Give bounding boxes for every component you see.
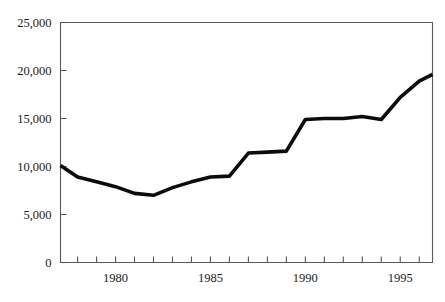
y-axis-ticks — [61, 23, 67, 263]
x-axis-ticks — [78, 257, 420, 263]
y-tick-label: 15,000 — [17, 112, 51, 126]
y-tick-label: 0 — [45, 256, 51, 270]
x-tick-label: 1980 — [103, 271, 128, 285]
y-axis-tick-labels: 05,00010,00015,00020,00025,000 — [17, 16, 51, 270]
plot-border — [61, 23, 433, 263]
data-series-group — [61, 74, 433, 195]
line-chart: 05,00010,00015,00020,00025,000 198019851… — [0, 0, 445, 302]
y-tick-label: 20,000 — [17, 64, 51, 78]
x-axis-tick-labels: 1980198519901995 — [103, 271, 413, 285]
y-tick-label: 10,000 — [17, 160, 51, 174]
chart-canvas: 05,00010,00015,00020,00025,000 198019851… — [0, 0, 445, 302]
x-tick-label: 1985 — [198, 271, 223, 285]
y-tick-label: 25,000 — [17, 16, 51, 30]
x-tick-label: 1995 — [388, 271, 413, 285]
plot-frame — [61, 23, 433, 263]
x-tick-label: 1990 — [293, 271, 318, 285]
data-line-series-1 — [61, 74, 433, 195]
y-tick-label: 5,000 — [23, 208, 51, 222]
